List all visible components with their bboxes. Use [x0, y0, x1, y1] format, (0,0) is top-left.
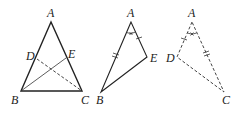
label-e: E — [149, 51, 158, 65]
ad-tick — [181, 38, 187, 40]
label-b: B — [11, 93, 19, 107]
label-c: C — [222, 93, 231, 107]
label-a: A — [126, 6, 135, 20]
label-b: B — [96, 93, 104, 107]
label-e: E — [67, 47, 76, 61]
label-d: D — [165, 51, 175, 65]
label-d: D — [25, 49, 35, 63]
triangle-abc: A D E B C — [11, 6, 90, 107]
label-a: A — [46, 6, 55, 20]
label-a: A — [187, 6, 196, 20]
ab-tick — [112, 56, 118, 58]
triangle-abe: A E B — [96, 6, 158, 107]
triangle-acd-outline — [177, 22, 224, 92]
triangle-acd: A D C — [165, 6, 231, 107]
triangle-abe-outline — [101, 22, 147, 92]
label-c: C — [81, 93, 90, 107]
geometry-diagram: A D E B C A E B A D C — [0, 0, 243, 115]
ac-tick — [203, 51, 209, 53]
